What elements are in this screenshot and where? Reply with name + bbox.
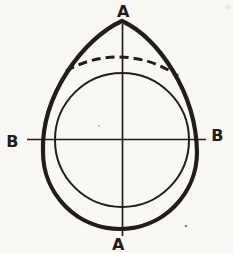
label-a-bottom: A [112,235,125,253]
label-a-top: A [117,2,130,21]
scan-speck [98,125,100,127]
scan-speck [185,225,188,228]
label-b-right: B [211,126,223,145]
paper-background [0,0,233,253]
scan-smudge [225,4,231,10]
bore-wear-diagram: A A B B [0,0,233,253]
label-b-left: B [6,132,18,151]
figure-canvas: A A B B [0,0,233,253]
